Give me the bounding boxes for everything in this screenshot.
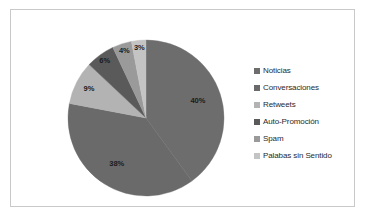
legend-swatch-icon [254, 119, 260, 125]
pie-slice-label: 9% [84, 84, 95, 93]
pie-slice-group [68, 40, 224, 196]
plot-area: 40%38%9%6%4%3% NoticiasConversacionesRet… [11, 10, 354, 206]
legend-swatch-icon [254, 85, 260, 91]
legend-swatch-icon [254, 136, 260, 142]
pie-svg: 40%38%9%6%4%3% [67, 39, 225, 197]
chart-frame: 40%38%9%6%4%3% NoticiasConversacionesRet… [10, 9, 355, 207]
pie-slice-label: 40% [190, 96, 205, 105]
pie-slice-label: 38% [109, 159, 124, 168]
legend-swatch-icon [254, 68, 260, 74]
legend-swatch-icon [254, 102, 260, 108]
legend-item[interactable]: Auto-Promoción [254, 113, 362, 130]
legend-item-label: Auto-Promoción [263, 118, 319, 126]
pie-slice-label: 4% [119, 46, 130, 55]
pie-slice-label: 3% [134, 43, 145, 52]
legend-item[interactable]: Conversaciones [254, 79, 362, 96]
legend-item-label: Noticias [263, 67, 291, 75]
legend-item-label: Palabas sin Sentido [263, 152, 332, 160]
legend-item-label: Retweets [263, 101, 296, 109]
chart-legend: NoticiasConversacionesRetweetsAuto-Promo… [254, 62, 362, 164]
legend-item[interactable]: Retweets [254, 96, 362, 113]
legend-swatch-icon [254, 153, 260, 159]
legend-item[interactable]: Noticias [254, 62, 362, 79]
legend-item[interactable]: Spam [254, 130, 362, 147]
pie-slice-label: 6% [99, 56, 110, 65]
screenshot-canvas: 40%38%9%6%4%3% NoticiasConversacionesRet… [0, 0, 366, 218]
legend-item-label: Conversaciones [263, 84, 319, 92]
pie-chart: 40%38%9%6%4%3% [67, 39, 225, 197]
legend-item-label: Spam [263, 135, 284, 143]
legend-item[interactable]: Palabas sin Sentido [254, 147, 362, 164]
